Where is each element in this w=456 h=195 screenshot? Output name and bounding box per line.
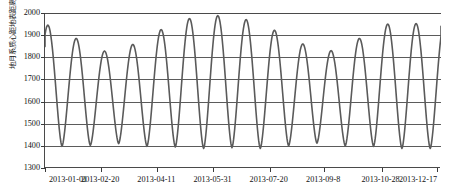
y-tick-label: 1800 bbox=[14, 53, 40, 61]
y-tick-mark bbox=[41, 35, 45, 36]
x-tick-label: 2013-09-8 bbox=[306, 175, 340, 184]
gridline bbox=[45, 57, 441, 58]
y-axis-tick-labels: 20001900180017001600150014001300 bbox=[14, 0, 40, 195]
gridline bbox=[45, 35, 441, 36]
x-tick-label: 2013-07-20 bbox=[250, 175, 288, 184]
x-tick-label: 2013-05-31 bbox=[193, 175, 231, 184]
y-tick-label: 2000 bbox=[14, 9, 40, 17]
y-tick-mark bbox=[41, 79, 45, 80]
x-axis-tick-labels: 2013-01-012013-02-202013-04-112013-05-31… bbox=[44, 168, 440, 194]
y-tick-label: 1400 bbox=[14, 142, 40, 150]
plot-top-border bbox=[45, 13, 441, 14]
chart-container: 地月系质心距地表距离(BE)/km 2000190018001700160015… bbox=[0, 0, 456, 195]
x-tick-label: 2013-04-11 bbox=[137, 175, 175, 184]
gridline bbox=[45, 102, 441, 103]
y-tick-label: 1900 bbox=[14, 31, 40, 39]
y-tick-label: 1300 bbox=[14, 164, 40, 172]
plot-area bbox=[44, 13, 440, 168]
y-tick-mark bbox=[41, 57, 45, 58]
x-tick-label: 2013-12-17 bbox=[399, 175, 437, 184]
x-tick-label: 2013-10-28 bbox=[361, 175, 399, 184]
x-tick-label: 2013-02-20 bbox=[81, 175, 119, 184]
data-series-line bbox=[45, 13, 441, 168]
y-tick-mark bbox=[41, 146, 45, 147]
y-tick-label: 1700 bbox=[14, 75, 40, 83]
y-tick-label: 1600 bbox=[14, 98, 40, 106]
y-tick-mark bbox=[41, 13, 45, 14]
y-tick-mark bbox=[41, 102, 45, 103]
y-tick-mark bbox=[41, 124, 45, 125]
gridline bbox=[45, 146, 441, 147]
gridline bbox=[45, 124, 441, 125]
gridline bbox=[45, 79, 441, 80]
y-tick-label: 1500 bbox=[14, 120, 40, 128]
